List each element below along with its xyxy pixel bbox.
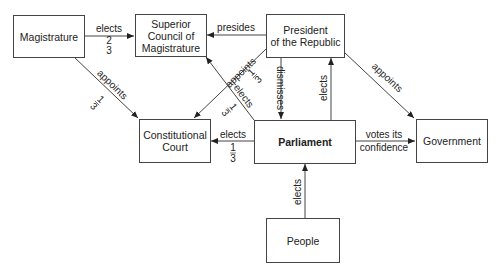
node-constitutional-court: Constitutional Court xyxy=(139,119,211,163)
label-mag-sc-den: 3 xyxy=(106,45,112,56)
label-parl-sc-den: 3 xyxy=(219,107,231,118)
label-pres-sc-presides: presides xyxy=(217,22,255,33)
node-government: Government xyxy=(416,119,488,163)
edge-magistrature-constitutional-court xyxy=(74,57,138,118)
fraction-mag-cc: 1 3 xyxy=(88,93,107,112)
node-magistrature: Magistrature xyxy=(13,15,85,58)
node-parliament: Parliament xyxy=(254,120,356,164)
label-parl-cc-num: 1 xyxy=(230,142,236,153)
label-parl-pres-elects: elects xyxy=(318,75,329,101)
label-pres-gov-appoints: appoints xyxy=(370,61,405,95)
node-superior-council: Superior Council of Magistrature xyxy=(135,14,207,57)
fraction-pres-cc: 1 3 xyxy=(245,66,264,85)
label-people-parl-elects: elects xyxy=(292,179,303,205)
label-mag-sc-elects: elects xyxy=(96,23,122,34)
node-people: People xyxy=(266,218,340,263)
label-pres-cc-den: 3 xyxy=(252,73,264,85)
label-mag-cc-den: 3 xyxy=(88,100,100,112)
node-president: President of the Republic xyxy=(266,14,345,58)
label-parl-gov-votes-line1: votes its xyxy=(366,129,403,140)
fraction-parl-sc: 1 3 xyxy=(219,101,240,119)
label-parl-gov-votes-line2: confidence xyxy=(360,142,409,153)
label-parl-cc-elects: elects xyxy=(220,129,246,140)
diagram-canvas: elects 2 3 presides appoints 1 3 appoint… xyxy=(0,0,498,275)
label-parl-cc-den: 3 xyxy=(230,153,236,164)
label-pres-parl-dismisses: dismisses xyxy=(275,66,286,110)
